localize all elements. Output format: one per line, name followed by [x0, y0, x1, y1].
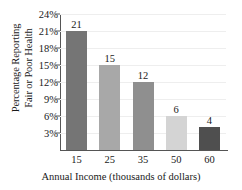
bar[interactable] — [166, 116, 187, 150]
bar[interactable] — [99, 65, 120, 150]
bar-chart: Percentage Reporting Fair or Poor Health… — [0, 0, 242, 190]
bar[interactable] — [199, 127, 220, 150]
bar-group[interactable]: 12 — [133, 14, 154, 150]
y-axis-title-line-1: Percentage Reporting — [10, 24, 22, 113]
x-axis-title: Annual Income (thousands of dollars) — [0, 170, 242, 183]
bar[interactable] — [133, 82, 154, 150]
x-axis-tick-label: 15 — [62, 153, 92, 166]
bar-value-label: 21 — [66, 19, 87, 30]
bar-value-label: 4 — [199, 115, 220, 126]
bar-value-label: 6 — [166, 104, 187, 115]
bar[interactable] — [66, 31, 87, 150]
x-axis-tick-label: 35 — [128, 153, 158, 166]
bar-value-label: 12 — [133, 70, 154, 81]
bars-layer: 21151264 — [60, 14, 226, 150]
bar-group[interactable]: 6 — [166, 14, 187, 150]
y-axis-tick-labels: 24%21%18%15%12%9%6%3% — [28, 10, 58, 150]
x-axis-tick-label: 60 — [194, 153, 224, 166]
plot-area: 21151264 — [60, 14, 226, 150]
x-axis-tick-labels: 1525355060 — [60, 153, 228, 167]
x-axis-tick-label: 50 — [161, 153, 191, 166]
x-axis-line — [60, 150, 228, 151]
bar-group[interactable]: 15 — [99, 14, 120, 150]
bar-group[interactable]: 4 — [199, 14, 220, 150]
bar-value-label: 15 — [99, 53, 120, 64]
bar-group[interactable]: 21 — [66, 14, 87, 150]
x-axis-tick-label: 25 — [95, 153, 125, 166]
